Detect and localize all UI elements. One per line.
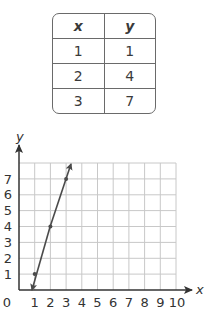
coordinate-graph: x y 0 1 2 3 4 5 6 7 8 9 10 1 2 3 4 5 6 7 [0,0,210,317]
x-tick: 10 [169,295,186,310]
y-tick: 5 [4,203,12,218]
x-tick: 2 [46,295,54,310]
x-tick: 7 [125,295,133,310]
x-tick: 5 [93,295,101,310]
y-tick-labels: 1 2 3 4 5 6 7 [4,172,12,282]
point-3-7 [64,177,68,181]
x-tick: 3 [62,295,70,310]
y-tick: 1 [4,267,12,282]
x-tick-labels: 0 1 2 3 4 5 6 7 8 9 10 [3,295,185,310]
x-tick: 1 [31,295,39,310]
grid-lines [19,163,176,290]
x-tick: 6 [109,295,117,310]
point-2-4 [48,225,52,229]
y-tick: 2 [4,251,12,266]
x-tick: 4 [78,295,86,310]
y-tick: 4 [4,219,12,234]
y-tick: 3 [4,235,12,250]
y-tick: 6 [4,187,12,202]
point-1-1 [33,272,37,276]
y-axis-label: y [15,129,24,144]
origin-label: 0 [3,295,11,310]
x-tick: 8 [140,295,148,310]
x-axis-label: x [195,282,204,297]
x-tick: 9 [156,295,164,310]
y-tick: 7 [4,172,12,187]
